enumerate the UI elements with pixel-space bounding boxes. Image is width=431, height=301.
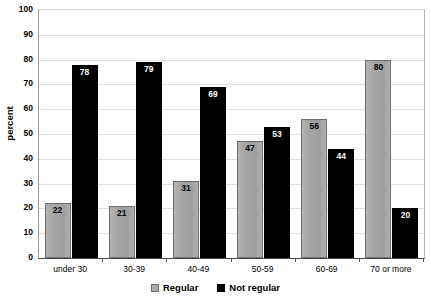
- legend-label-regular: Regular: [163, 283, 198, 293]
- legend-swatch-regular-icon: [151, 284, 159, 292]
- y-axis-tick-10: 10: [6, 228, 33, 236]
- bar-value-label: 56: [302, 122, 326, 131]
- x-axis-label-40-49: 40-49: [166, 263, 230, 275]
- bar-value-label: 53: [265, 130, 289, 139]
- y-axis-tick-40: 40: [6, 154, 33, 162]
- x-axis-tick: [295, 258, 296, 262]
- chart-legend: Regular Not regular: [0, 283, 431, 293]
- x-axis-tick: [423, 258, 424, 262]
- legend-item-regular: Regular: [151, 283, 198, 293]
- bar-chart: percent 1009080706050403020100 227821793…: [0, 0, 431, 301]
- bar-50-59-regular: 47: [237, 141, 263, 258]
- bar-60-69-not-regular: 44: [328, 149, 354, 258]
- bar-40-49-not-regular: 69: [200, 87, 226, 258]
- bar-value-label: 31: [174, 184, 198, 193]
- legend-item-not-regular: Not regular: [217, 283, 280, 293]
- y-axis-tick-20: 20: [6, 203, 33, 211]
- bar-value-label: 20: [393, 211, 417, 220]
- chart-title-clipped: [0, 0, 431, 2]
- bar-under-30-regular: 22: [45, 203, 71, 258]
- x-axis-tick: [102, 258, 103, 262]
- x-axis-category-labels: under 3030-3940-4950-5960-6970 or more: [38, 263, 423, 277]
- bar-value-label: 79: [137, 65, 161, 74]
- x-axis-label-60-69: 60-69: [295, 263, 359, 275]
- bar-70-or-more-not-regular: 20: [392, 208, 418, 258]
- y-axis-tick-80: 80: [6, 55, 33, 63]
- bar-40-49-regular: 31: [173, 181, 199, 258]
- bar-value-label: 44: [329, 152, 353, 161]
- y-axis-tick-labels: 1009080706050403020100: [6, 9, 33, 257]
- bar-under-30-not-regular: 78: [72, 65, 98, 258]
- y-axis-tick-100: 100: [6, 5, 33, 13]
- x-axis-label-50-59: 50-59: [231, 263, 295, 275]
- legend-label-not-regular: Not regular: [229, 283, 280, 293]
- x-axis-tick: [231, 258, 232, 262]
- plot-area: 227821793169475356448020: [38, 9, 425, 259]
- y-axis-tick-50: 50: [6, 129, 33, 137]
- y-axis-tick-70: 70: [6, 79, 33, 87]
- y-axis-tick-90: 90: [6, 30, 33, 38]
- bar-50-59-not-regular: 53: [264, 127, 290, 258]
- bar-value-label: 69: [201, 90, 225, 99]
- bar-value-label: 22: [46, 206, 70, 215]
- bar-30-39-not-regular: 79: [136, 62, 162, 258]
- bar-60-69-regular: 56: [301, 119, 327, 258]
- bar-value-label: 47: [238, 144, 262, 153]
- y-axis-tick-30: 30: [6, 179, 33, 187]
- x-axis-label-30-39: 30-39: [102, 263, 166, 275]
- x-axis-tick: [359, 258, 360, 262]
- x-axis-label-under-30: under 30: [38, 263, 102, 275]
- legend-swatch-not-regular-icon: [217, 284, 225, 292]
- bar-value-label: 80: [366, 63, 390, 72]
- y-axis-tick-60: 60: [6, 104, 33, 112]
- x-axis-tick: [166, 258, 167, 262]
- bar-value-label: 78: [73, 68, 97, 77]
- y-axis-tick-0: 0: [6, 253, 33, 261]
- bar-70-or-more-regular: 80: [365, 60, 391, 258]
- bar-value-label: 21: [110, 209, 134, 218]
- x-axis-label-70-or-more: 70 or more: [359, 263, 423, 275]
- bars-layer: 227821793169475356448020: [39, 10, 424, 258]
- bar-30-39-regular: 21: [109, 206, 135, 258]
